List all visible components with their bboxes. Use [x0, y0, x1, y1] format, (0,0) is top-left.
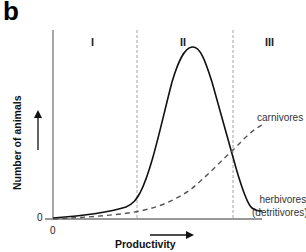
herbivores-curve	[53, 47, 262, 218]
herbivores-label: herbivores (detritivores)	[252, 193, 306, 219]
herbivores-label-line1: herbivores	[252, 193, 306, 206]
y-axis-title: Number of animals	[11, 95, 23, 190]
y-zero-tick: 0	[37, 212, 43, 223]
carnivores-label: carnivores	[257, 111, 303, 124]
region-label-1: I	[91, 36, 94, 48]
x-zero-tick: 0	[50, 225, 56, 236]
region-label-2: II	[180, 36, 186, 48]
x-axis-title: Productivity	[115, 238, 176, 250]
region-label-3: III	[265, 36, 274, 48]
herbivores-label-line2: (detritivores)	[252, 206, 306, 219]
